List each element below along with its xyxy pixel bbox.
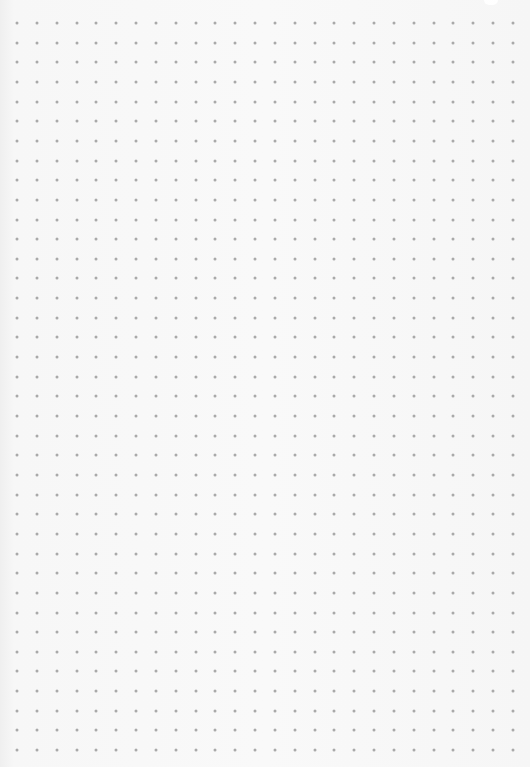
grid-dot: [214, 650, 217, 653]
grid-dot: [333, 690, 336, 693]
grid-dot: [35, 61, 38, 64]
grid-dot: [234, 316, 237, 319]
grid-dot: [452, 415, 455, 418]
grid-dot: [392, 22, 395, 25]
grid-dot: [313, 552, 316, 555]
grid-dot: [432, 552, 435, 555]
grid-dot: [16, 395, 19, 398]
grid-dot: [214, 729, 217, 732]
grid-dot: [115, 218, 118, 221]
grid-dot: [254, 670, 257, 673]
grid-dot: [472, 375, 475, 378]
grid-dot: [432, 454, 435, 457]
grid-dot: [472, 532, 475, 535]
grid-dot: [194, 690, 197, 693]
grid-dot: [313, 729, 316, 732]
grid-dot: [115, 532, 118, 535]
grid-dot: [472, 670, 475, 673]
grid-dot: [234, 277, 237, 280]
grid-dot: [194, 316, 197, 319]
grid-dot: [392, 572, 395, 575]
grid-dot: [512, 591, 515, 594]
grid-dot: [373, 120, 376, 123]
grid-dot: [452, 41, 455, 44]
grid-dot: [75, 61, 78, 64]
grid-dot: [373, 454, 376, 457]
grid-dot: [254, 316, 257, 319]
grid-dot: [313, 611, 316, 614]
grid-dot: [35, 218, 38, 221]
grid-dot: [492, 591, 495, 594]
grid-dot: [472, 179, 475, 182]
grid-dot: [194, 395, 197, 398]
grid-dot: [472, 61, 475, 64]
grid-dot: [234, 729, 237, 732]
grid-dot: [412, 277, 415, 280]
grid-dot: [154, 356, 157, 359]
grid-dot: [194, 277, 197, 280]
grid-dot: [75, 198, 78, 201]
grid-dot: [194, 198, 197, 201]
grid-dot: [115, 572, 118, 575]
grid-dot: [313, 434, 316, 437]
grid-dot: [412, 139, 415, 142]
grid-dot: [35, 532, 38, 535]
grid-dot: [353, 120, 356, 123]
grid-dot: [492, 532, 495, 535]
grid-dot: [95, 198, 98, 201]
grid-dot: [174, 454, 177, 457]
grid-dot: [333, 159, 336, 162]
grid-dot: [135, 631, 138, 634]
grid-dot: [95, 513, 98, 516]
grid-dot: [472, 434, 475, 437]
grid-dot: [234, 690, 237, 693]
grid-dot: [412, 709, 415, 712]
grid-dot: [75, 375, 78, 378]
grid-dot: [254, 61, 257, 64]
grid-dot: [16, 297, 19, 300]
grid-dot: [35, 198, 38, 201]
grid-dot: [273, 709, 276, 712]
grid-dot: [392, 80, 395, 83]
grid-dot: [432, 473, 435, 476]
grid-dot: [313, 690, 316, 693]
grid-dot: [194, 80, 197, 83]
grid-dot: [472, 749, 475, 752]
grid-dot: [55, 473, 58, 476]
grid-dot: [214, 749, 217, 752]
grid-dot: [95, 61, 98, 64]
grid-dot: [254, 709, 257, 712]
grid-dot: [293, 473, 296, 476]
grid-dot: [353, 690, 356, 693]
grid-dot: [135, 41, 138, 44]
grid-dot: [154, 22, 157, 25]
grid-dot: [293, 198, 296, 201]
grid-dot: [273, 179, 276, 182]
grid-dot: [55, 238, 58, 241]
grid-dot: [234, 552, 237, 555]
grid-dot: [452, 336, 455, 339]
grid-dot: [392, 650, 395, 653]
grid-dot: [194, 749, 197, 752]
grid-dot: [472, 631, 475, 634]
grid-dot: [35, 316, 38, 319]
grid-dot: [313, 159, 316, 162]
grid-dot: [452, 238, 455, 241]
grid-dot: [254, 41, 257, 44]
grid-dot: [353, 631, 356, 634]
grid-dot: [95, 179, 98, 182]
grid-dot: [333, 749, 336, 752]
grid-dot: [273, 100, 276, 103]
grid-dot: [75, 41, 78, 44]
grid-dot: [75, 120, 78, 123]
grid-dot: [353, 749, 356, 752]
grid-dot: [492, 22, 495, 25]
grid-dot: [16, 100, 19, 103]
grid-dot: [472, 41, 475, 44]
grid-dot: [412, 356, 415, 359]
grid-dot: [412, 120, 415, 123]
grid-dot: [254, 336, 257, 339]
grid-dot: [492, 100, 495, 103]
grid-dot: [174, 670, 177, 673]
grid-dot: [273, 80, 276, 83]
